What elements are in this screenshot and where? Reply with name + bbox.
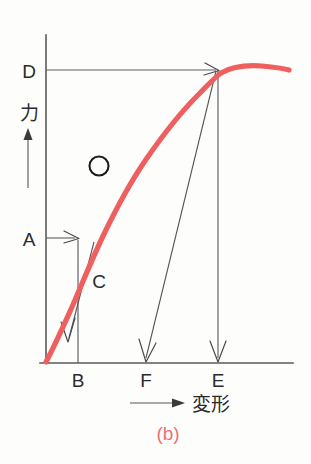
- label-c: C: [92, 271, 106, 292]
- x-axis-label: 変形: [192, 393, 230, 415]
- point-marker-o: [90, 157, 109, 176]
- label-e: E: [212, 370, 225, 391]
- x-axis-direction-arrowhead: [172, 399, 185, 408]
- label-d: D: [22, 61, 36, 82]
- label-b: B: [72, 370, 85, 391]
- label-a: A: [23, 229, 36, 250]
- force-deformation-curve: [46, 66, 289, 362]
- figure-caption: (b): [156, 423, 179, 444]
- figure-container: D A 力 B F E C 変形 (b): [0, 0, 311, 464]
- arrowhead-a: [64, 231, 79, 243]
- y-axis-label: 力: [20, 102, 39, 124]
- y-axis-direction-arrowhead: [24, 128, 33, 140]
- label-f: F: [140, 370, 152, 391]
- force-deformation-diagram: D A 力 B F E C 変形 (b): [0, 0, 311, 464]
